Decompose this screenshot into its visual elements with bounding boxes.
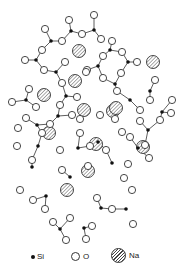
- legend-o: O: [71, 252, 89, 261]
- oxygen-atom: [29, 196, 36, 203]
- silicon-atom: [99, 206, 103, 210]
- oxygen-atom: [168, 96, 175, 103]
- oxygen-atom: [13, 142, 20, 149]
- oxygen-atom: [8, 98, 15, 105]
- oxygen-atom: [22, 114, 29, 121]
- oxygen-atom: [117, 69, 124, 76]
- oxygen-atom: [32, 103, 39, 110]
- silicon-atom: [124, 207, 128, 211]
- oxygen-atom: [41, 25, 48, 32]
- oxygen-atom: [113, 87, 120, 94]
- silicon-atom: [110, 161, 114, 165]
- oxygen-atom: [93, 194, 100, 201]
- oxygen-atom: [78, 30, 85, 37]
- silicon-atom: [136, 146, 140, 150]
- na-ion: [110, 102, 123, 115]
- silicon-atom: [68, 175, 72, 179]
- oxygen-atom: [49, 218, 56, 225]
- oxygen-atom: [167, 109, 174, 116]
- oxygen-atom: [84, 162, 91, 169]
- na-ion: [147, 56, 160, 69]
- oxygen-atom: [118, 128, 125, 135]
- o-circle-icon: [71, 252, 80, 261]
- oxygen-atom: [76, 129, 83, 136]
- oxygen-atom: [82, 68, 89, 75]
- oxygen-atom: [76, 115, 83, 122]
- oxygen-atom: [46, 120, 53, 127]
- oxygen-atom: [128, 186, 135, 193]
- oxygen-atom: [65, 16, 72, 23]
- silicon-atom: [30, 165, 34, 169]
- na-hatched-circle-icon: [111, 248, 126, 263]
- oxygen-atom: [145, 154, 152, 161]
- silicon-atom: [44, 194, 48, 198]
- oxygen-atom: [108, 205, 115, 212]
- oxygen-atom: [14, 124, 21, 131]
- oxygen-atom: [156, 116, 163, 123]
- oxygen-atom: [21, 56, 28, 63]
- na-ion: [38, 89, 51, 102]
- oxygen-atom: [136, 106, 143, 113]
- oxygen-atom: [58, 166, 65, 173]
- oxygen-atom: [111, 115, 118, 122]
- oxygen-atom: [96, 111, 103, 118]
- oxygen-atom: [61, 58, 68, 65]
- silicon-atom: [24, 98, 28, 102]
- silicon-atom: [148, 89, 152, 93]
- oxygen-atom: [118, 48, 125, 55]
- na-ion: [61, 184, 74, 197]
- silicon-atom: [35, 123, 39, 127]
- oxygen-atom: [73, 93, 80, 100]
- silicon-atom: [146, 128, 150, 132]
- oxygen-atom: [68, 111, 75, 118]
- silicon-atom: [69, 29, 73, 33]
- silicon-atom: [36, 144, 40, 148]
- silicon-atom: [113, 82, 117, 86]
- oxygen-atom: [120, 174, 127, 181]
- oxygen-atom: [40, 66, 47, 73]
- silicon-atom: [128, 98, 132, 102]
- silicon-atom: [82, 226, 86, 230]
- oxygen-atom: [58, 79, 65, 86]
- silicate-network-diagram: [0, 0, 186, 250]
- oxygen-atom: [97, 35, 104, 42]
- oxygen-atom: [141, 141, 148, 148]
- oxygen-atom: [146, 96, 153, 103]
- oxygen-atom: [88, 222, 95, 229]
- na-ion: [69, 75, 82, 88]
- oxygen-atom: [56, 101, 63, 108]
- oxygen-atom: [41, 205, 48, 212]
- na-ion: [78, 104, 91, 117]
- oxygen-atom: [102, 146, 109, 153]
- si-dot-icon: [31, 255, 35, 259]
- oxygen-atom: [126, 133, 133, 140]
- legend: Si O Na: [0, 252, 186, 270]
- oxygen-atom: [133, 58, 140, 65]
- silicon-atom: [160, 110, 164, 114]
- oxygen-atom: [38, 129, 45, 136]
- oxygen-atom: [62, 236, 69, 243]
- silicon-atom: [54, 70, 58, 74]
- oxygen-atom: [136, 117, 143, 124]
- silicon-atom: [126, 60, 130, 64]
- oxygen-atom: [151, 76, 158, 83]
- oxygen-atom: [86, 142, 93, 149]
- oxygen-atom: [90, 11, 97, 18]
- silicon-atom: [108, 48, 112, 52]
- silicon-atom: [34, 58, 38, 62]
- silicon-atom: [64, 94, 68, 98]
- oxygen-atom: [129, 220, 136, 227]
- oxygen-atom: [66, 214, 73, 221]
- oxygen-atom: [25, 85, 32, 92]
- oxygen-atom: [99, 74, 106, 81]
- silicon-atom: [58, 227, 62, 231]
- legend-na: Na: [111, 248, 139, 263]
- oxygen-atom: [124, 160, 131, 167]
- silicon-atom: [96, 140, 100, 144]
- oxygen-atom: [38, 46, 45, 53]
- oxygen-atom: [99, 52, 106, 59]
- oxygen-atom: [16, 186, 23, 193]
- na-ion: [73, 45, 86, 58]
- oxygen-atom: [28, 156, 35, 163]
- oxygen-atom: [108, 37, 115, 44]
